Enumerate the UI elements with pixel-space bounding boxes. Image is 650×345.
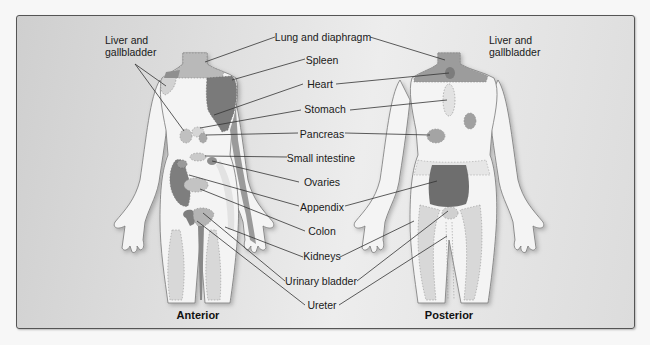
- liver-gallbladder-anterior: [180, 129, 192, 143]
- appendix-posterior: [429, 165, 469, 207]
- label-liver-gallbladder-posterior: Liver and gallbladder: [489, 34, 540, 58]
- label-colon: Colon: [308, 225, 335, 237]
- label-urinary-bladder: Urinary bladder: [285, 275, 357, 287]
- small-intestine-region: [190, 153, 206, 161]
- view-title-anterior: Anterior: [177, 309, 220, 321]
- urinary-bladder-posterior: [442, 207, 458, 219]
- label-spleen: Spleen: [306, 54, 339, 66]
- liver-gallbladder-posterior: [464, 113, 476, 129]
- label-liver-gallbladder-anterior: Liver and gallbladder: [105, 34, 156, 58]
- label-kidneys: Kidneys: [303, 250, 340, 262]
- pancreas-region: [199, 133, 207, 143]
- view-title-posterior: Posterior: [425, 309, 473, 321]
- colon-region: [184, 178, 208, 192]
- label-heart: Heart: [307, 78, 333, 90]
- body-diagram: [0, 0, 650, 345]
- label-pancreas: Pancreas: [300, 128, 344, 140]
- pancreas-posterior: [427, 129, 445, 143]
- label-lung-diaphragm: Lung and diaphragm: [275, 31, 371, 43]
- label-ureter: Ureter: [307, 299, 336, 311]
- label-small-intestine: Small intestine: [287, 152, 355, 164]
- label-ovaries: Ovaries: [304, 176, 340, 188]
- label-stomach: Stomach: [304, 103, 345, 115]
- label-appendix: Appendix: [300, 201, 344, 213]
